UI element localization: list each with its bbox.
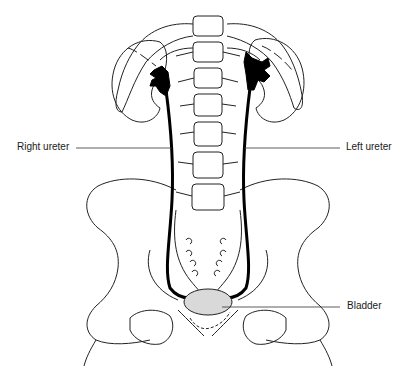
bladder: [184, 289, 232, 315]
label-bladder: Bladder: [347, 301, 381, 311]
pelvis: [84, 179, 332, 366]
spine: [176, 16, 240, 210]
urinary-tract-diagram: Right ureter Left ureter Bladder: [0, 0, 415, 370]
renal-pelves: [150, 52, 270, 96]
label-left-ureter: Left ureter: [346, 142, 392, 152]
label-right-ureter: Right ureter: [17, 142, 69, 152]
